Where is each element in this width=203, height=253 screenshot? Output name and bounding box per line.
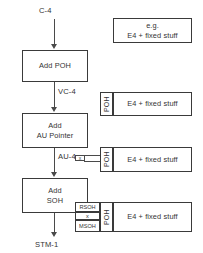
arrowhead-c4-to-add-poh <box>51 44 57 49</box>
frame-au4: POH E4 + fixed stuff <box>100 147 192 172</box>
connector-add-au-pointer-to-add-soh <box>54 148 55 173</box>
frame-stm1-overhead-stack: RSOH x MSOH <box>75 202 100 232</box>
frame-stm1-cell-msoh: MSOH <box>75 220 100 232</box>
process-add-au-pointer-line-1: AU Pointer <box>37 131 74 141</box>
frame-vc4-cell-poh: POH <box>100 92 113 116</box>
arrowhead-add-poh-to-add-au-pointer <box>51 107 57 112</box>
frame-stm1-cell-rsoh: RSOH <box>75 202 100 212</box>
frame-au4-payload-line-0: E4 + fixed stuff <box>127 155 178 164</box>
frame-stm1-payload-line-0: E4 + fixed stuff <box>127 212 178 221</box>
frame-stm1: RSOH x MSOH POH E4 + fixed stuff <box>75 202 192 232</box>
process-add-au-pointer-line-0: Add <box>48 121 61 131</box>
au-pointer-callout-line-top <box>84 155 101 156</box>
flow-start-label: C-4 <box>39 6 52 15</box>
process-add-soh-line-0: Add <box>48 186 61 196</box>
arrowhead-add-au-pointer-to-add-soh <box>51 172 57 177</box>
frame-stm1-payload: E4 + fixed stuff <box>113 202 192 232</box>
frame-au4-payload: E4 + fixed stuff <box>113 147 192 172</box>
frame-vc4-payload-line-0: E4 + fixed stuff <box>127 99 178 108</box>
connector-c4-to-add-poh <box>54 19 55 45</box>
frame-c4: e.g. E4 + fixed stuff <box>113 18 192 43</box>
flow-end-label: STM-1 <box>35 240 58 249</box>
frame-c4-payload: e.g. E4 + fixed stuff <box>113 18 192 43</box>
frame-stm1-cell-poh: POH <box>100 202 113 232</box>
diagram-canvas: C-4 Add POH VC-4 Add AU Pointer AU-4 Add… <box>0 0 203 253</box>
flow-label-vc-4: VC-4 <box>58 87 76 96</box>
frame-au4-cell-poh: POH <box>100 147 113 172</box>
process-add-poh[interactable]: Add POH <box>22 50 88 82</box>
au-pointer-callout-line-bottom <box>84 161 101 162</box>
process-add-poh-line-0: Add POH <box>39 61 71 71</box>
frame-vc4: POH E4 + fixed stuff <box>100 92 192 116</box>
frame-c4-payload-line-0: e.g. <box>146 21 159 30</box>
flow-label-au-4: AU-4 <box>58 152 76 161</box>
process-add-soh-line-1: SOH <box>47 196 63 206</box>
frame-stm1-cell-au-pointer: x <box>75 212 100 220</box>
process-add-au-pointer[interactable]: Add AU Pointer <box>22 113 88 148</box>
frame-c4-payload-line-1: E4 + fixed stuff <box>127 31 178 40</box>
arrowhead-add-soh-to-stm1 <box>51 232 57 237</box>
connector-add-poh-to-add-au-pointer <box>54 82 55 108</box>
connector-add-soh-to-stm1 <box>54 213 55 233</box>
frame-vc4-payload: E4 + fixed stuff <box>113 92 192 116</box>
